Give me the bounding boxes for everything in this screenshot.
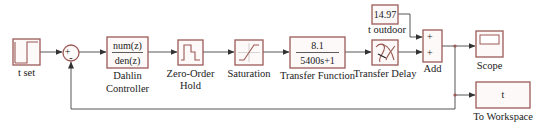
workspace-label: To Workspace — [473, 111, 533, 122]
constant-value: 14.97 — [374, 9, 397, 20]
plant-numerator: 8.1 — [311, 40, 324, 51]
add-block[interactable]: + + Add — [423, 30, 442, 74]
scope-screen-icon — [480, 35, 499, 44]
add-label: Add — [423, 63, 442, 74]
constant-block[interactable]: 14.97 t outdoor — [368, 5, 407, 35]
step-block[interactable]: t set — [13, 39, 40, 78]
sum-block[interactable]: + - — [63, 45, 79, 63]
zoh-label-line1: Zero-Order — [167, 68, 215, 79]
plant-denominator: 5400s+1 — [300, 55, 335, 66]
saturation-block[interactable]: Saturation — [227, 40, 271, 79]
delay-label: Transfer Delay — [354, 68, 418, 79]
delay-block[interactable]: Transfer Delay — [354, 40, 418, 79]
zoh-label-line2: Hold — [180, 80, 202, 91]
controller-label-line2: Controller — [106, 83, 150, 94]
plant-label: Transfer Function — [280, 70, 356, 81]
zoh-block[interactable]: Zero-Order Hold — [167, 40, 215, 91]
add-sign-1: + — [427, 31, 433, 42]
branch-point — [453, 44, 456, 47]
controller-label-line1: Dahlin — [113, 70, 142, 81]
scope-label: Scope — [477, 60, 503, 71]
wire-add-to-workspace — [455, 46, 475, 95]
scope-block[interactable]: Scope — [476, 31, 503, 71]
branch-point — [453, 93, 456, 96]
workspace-block[interactable]: t To Workspace — [473, 82, 533, 122]
saturation-label: Saturation — [227, 68, 271, 79]
workspace-variable: t — [502, 89, 505, 100]
add-sign-2: + — [427, 47, 433, 58]
simulink-diagram: t set + - num(z) den(z) Dahlin Controlle… — [0, 0, 544, 126]
controller-numerator: num(z) — [113, 40, 142, 52]
constant-label: t outdoor — [368, 24, 407, 35]
controller-denominator: den(z) — [115, 55, 141, 67]
sum-sign-minus: - — [69, 52, 72, 63]
step-label: t set — [18, 67, 35, 78]
controller-block[interactable]: num(z) den(z) Dahlin Controller — [106, 37, 150, 94]
plant-block[interactable]: 8.1 5400s+1 Transfer Function — [280, 37, 356, 81]
